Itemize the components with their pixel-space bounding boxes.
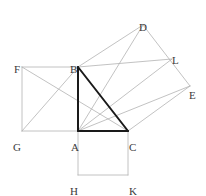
vertex-label-c: C: [129, 142, 136, 153]
geometry-figure: DLFBEGACHK: [0, 0, 206, 196]
vertex-label-a: A: [71, 142, 79, 153]
vertex-label-d: D: [139, 22, 147, 33]
cevian-f-to-c: [22, 67, 128, 131]
cevian-a-to-l: [78, 59, 172, 131]
cevian-b-to-l: [78, 59, 172, 67]
vertex-label-e: E: [189, 90, 196, 101]
hyp-square-de: [143, 25, 190, 86]
vertex-label-l: L: [172, 55, 179, 66]
vertex-label-h: H: [70, 186, 78, 196]
vertex-label-k: K: [129, 186, 137, 196]
vertex-label-g: G: [13, 142, 21, 153]
cevian-a-to-e: [78, 86, 190, 131]
hyp-square-bd: [78, 25, 143, 67]
vertex-label-b: B: [70, 64, 77, 75]
vertex-label-f: F: [14, 64, 20, 75]
figure-canvas: [0, 0, 206, 196]
construction-lines-layer: [22, 25, 190, 175]
right-triangle-layer: [78, 67, 128, 131]
hyp-square-ec: [128, 86, 190, 131]
cevian-g-to-b: [22, 67, 78, 131]
triangle-hyp-bc: [78, 67, 128, 131]
